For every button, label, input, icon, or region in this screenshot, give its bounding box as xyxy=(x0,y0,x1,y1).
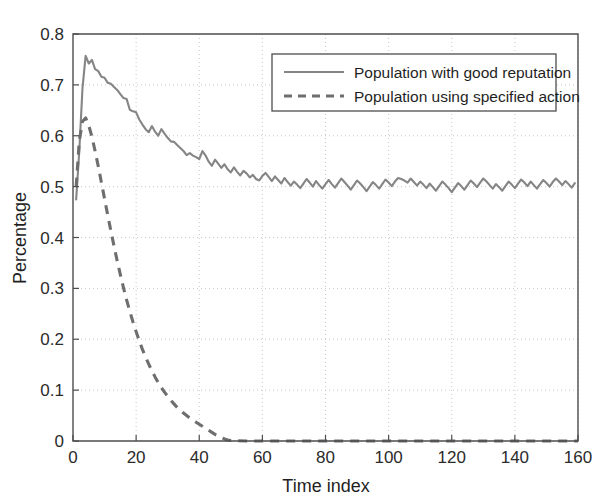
x-tick-label: 160 xyxy=(564,448,592,467)
data-series-layer xyxy=(76,56,578,441)
y-tick-label: 0.8 xyxy=(40,25,64,44)
y-tick-label: 0.1 xyxy=(40,381,64,400)
y-tick-label: 0.3 xyxy=(40,279,64,298)
x-tick-label: 60 xyxy=(253,448,272,467)
x-tick-label: 100 xyxy=(374,448,402,467)
legend-label: Population using specified action xyxy=(354,88,580,105)
x-tick-label: 80 xyxy=(316,448,335,467)
y-tick-label: 0.6 xyxy=(40,127,64,146)
y-tick-label: 0.5 xyxy=(40,178,64,197)
data-series-dashed xyxy=(76,118,578,441)
x-tick-label: 120 xyxy=(438,448,466,467)
x-axis-title: Time index xyxy=(282,476,369,496)
x-tick-label: 20 xyxy=(127,448,146,467)
y-tick-label: 0.7 xyxy=(40,76,64,95)
x-tick-label: 40 xyxy=(190,448,209,467)
legend-label: Population with good reputation xyxy=(354,64,571,81)
y-tick-label: 0.2 xyxy=(40,330,64,349)
chart-figure: 02040608010012014016000.10.20.30.40.50.6… xyxy=(0,0,608,502)
y-tick-label: 0.4 xyxy=(40,229,64,248)
x-tick-label: 140 xyxy=(501,448,529,467)
chart-svg: 02040608010012014016000.10.20.30.40.50.6… xyxy=(0,0,608,502)
y-axis-title: Percentage xyxy=(10,192,30,284)
y-tick-label: 0 xyxy=(55,432,64,451)
chart-legend: Population with good reputationPopulatio… xyxy=(272,54,580,111)
x-tick-label: 0 xyxy=(68,448,77,467)
